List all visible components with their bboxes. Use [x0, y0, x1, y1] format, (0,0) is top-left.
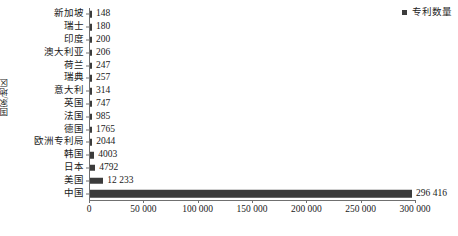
category-label: 中国 — [64, 189, 84, 199]
bar-value-label: 12 233 — [107, 176, 133, 186]
category-label: 日本 — [64, 163, 84, 173]
bar-value-label: 747 — [96, 99, 110, 109]
x-axis-tick-label: 150 000 — [237, 205, 268, 215]
bar-value-label: 200 — [96, 35, 110, 45]
bar-value-label: 985 — [96, 112, 110, 122]
plot-area: 新加坡148瑞士180印度200澳大利亚206荷兰247瑞典257意大利314英… — [89, 8, 415, 200]
bar-row: 美国12 233 — [89, 174, 415, 187]
category-label: 德国 — [64, 125, 84, 135]
y-axis-tick — [86, 167, 89, 168]
x-axis-tick-label: 100 000 — [182, 205, 213, 215]
bar — [90, 189, 412, 198]
category-label: 法国 — [64, 112, 84, 122]
bar-value-label: 1765 — [96, 125, 115, 135]
category-label: 英国 — [64, 99, 84, 109]
y-axis-title: 国家/地区 — [1, 78, 14, 116]
bar — [90, 101, 92, 108]
bar-row: 瑞典257 — [89, 72, 415, 85]
bar-value-label: 296 416 — [416, 189, 447, 199]
bar — [90, 126, 92, 133]
category-label: 荷兰 — [64, 61, 84, 71]
patent-count-bar-chart: 专利数量 国家/地区 新加坡148瑞士180印度200澳大利亚206荷兰247瑞… — [0, 0, 458, 236]
x-axis-tick — [198, 200, 199, 203]
bar-value-label: 247 — [96, 61, 110, 71]
bar-value-label: 314 — [96, 86, 110, 96]
x-axis-tick-label: 0 — [87, 205, 92, 215]
legend-label: 专利数量 — [412, 8, 452, 18]
bar — [90, 50, 92, 57]
y-axis-tick — [86, 14, 89, 15]
x-axis-tick — [361, 200, 362, 203]
x-axis-tick-label: 50 000 — [130, 205, 156, 215]
x-axis-tick — [306, 200, 307, 203]
bar — [90, 24, 92, 31]
x-axis-tick-label: 300 000 — [400, 205, 431, 215]
y-axis-tick — [86, 180, 89, 181]
x-axis-tick — [415, 200, 416, 203]
bar-row: 荷兰247 — [89, 59, 415, 72]
y-axis-tick — [86, 39, 89, 40]
bar-row: 印度200 — [89, 34, 415, 47]
category-label: 欧洲专利局 — [34, 138, 84, 148]
category-label: 意大利 — [54, 86, 84, 96]
bar-row: 瑞士180 — [89, 21, 415, 34]
category-label: 澳大利亚 — [44, 48, 84, 58]
bar-row: 法国985 — [89, 110, 415, 123]
bar — [90, 37, 92, 44]
bar — [90, 114, 92, 121]
bar-row: 意大利314 — [89, 85, 415, 98]
bar — [90, 178, 103, 185]
bar-value-label: 180 — [96, 22, 110, 32]
y-axis-tick — [86, 65, 89, 66]
y-axis-tick — [86, 193, 89, 194]
y-axis-tick — [86, 91, 89, 92]
y-axis-tick — [86, 52, 89, 53]
x-axis-tick — [252, 200, 253, 203]
y-axis-tick — [86, 27, 89, 28]
category-label: 美国 — [64, 176, 84, 186]
bar-value-label: 2044 — [96, 138, 115, 148]
bar-value-label: 148 — [96, 10, 110, 20]
bar — [90, 62, 92, 69]
bar — [90, 88, 92, 95]
bar-row: 欧洲专利局2044 — [89, 136, 415, 149]
y-axis-tick — [86, 116, 89, 117]
category-label: 韩国 — [64, 150, 84, 160]
x-axis-tick-label: 250 000 — [345, 205, 376, 215]
category-label: 新加坡 — [54, 10, 84, 20]
y-axis-tick — [86, 155, 89, 156]
bar-row: 新加坡148 — [89, 8, 415, 21]
y-axis-tick — [86, 78, 89, 79]
x-axis-tick — [89, 200, 90, 203]
bar-value-label: 4792 — [99, 163, 118, 173]
bar-value-label: 257 — [96, 74, 110, 84]
bar-row: 澳大利亚206 — [89, 46, 415, 59]
x-axis-tick — [143, 200, 144, 203]
category-label: 瑞典 — [64, 74, 84, 84]
bar — [90, 152, 94, 159]
category-label: 瑞士 — [64, 22, 84, 32]
bar-row: 中国296 416 — [89, 187, 415, 200]
bar-row: 日本4792 — [89, 162, 415, 175]
y-axis-tick — [86, 129, 89, 130]
category-label: 印度 — [64, 35, 84, 45]
bar-value-label: 206 — [96, 48, 110, 58]
x-axis-tick-label: 200 000 — [291, 205, 322, 215]
y-axis-tick — [86, 142, 89, 143]
y-axis-tick — [86, 103, 89, 104]
bar — [90, 75, 92, 82]
bar-value-label: 4003 — [98, 150, 117, 160]
bar — [90, 165, 95, 172]
bar — [90, 11, 92, 18]
bar-row: 德国1765 — [89, 123, 415, 136]
bar-row: 英国747 — [89, 98, 415, 111]
bar — [90, 139, 92, 146]
bar-row: 韩国4003 — [89, 149, 415, 162]
